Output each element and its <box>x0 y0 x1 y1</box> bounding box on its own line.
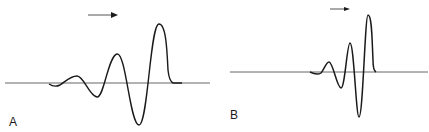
arrow-b-icon <box>330 7 350 11</box>
arrow-a-icon <box>88 12 118 18</box>
panel-a <box>5 12 210 125</box>
waveform-b <box>310 15 376 117</box>
panel-label-a: A <box>9 116 17 128</box>
waveform-diagram <box>0 0 429 132</box>
waveform-figure: A B <box>0 0 429 132</box>
waveform-a <box>49 24 182 125</box>
panel-b <box>230 7 428 117</box>
panel-label-b: B <box>230 109 238 121</box>
